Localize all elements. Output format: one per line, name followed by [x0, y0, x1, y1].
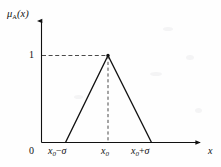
y-axis-title: μA(x)	[7, 9, 29, 21]
origin-label: 0	[29, 146, 34, 156]
tick-subscript: 0	[105, 150, 109, 158]
y-axis-title-argument: (x)	[17, 8, 29, 19]
peak-point-marker	[106, 54, 109, 57]
x-axis-title: x	[208, 146, 212, 156]
triangular-membership-function-figure: μA(x) 1 0 x0−σ x0 x0+σ x	[0, 0, 221, 167]
x-axis-tick-label-x0: x0	[101, 146, 109, 158]
x-axis-tick-label-x0-plus-sigma: x0+σ	[131, 146, 150, 158]
tick-symbol: σ	[62, 145, 67, 156]
tick-symbol: σ	[145, 145, 150, 156]
y-axis-tick-label-1: 1	[29, 50, 34, 60]
plot-canvas	[0, 0, 221, 167]
x-axis-tick-label-x0-minus-sigma: x0−σ	[48, 146, 67, 158]
